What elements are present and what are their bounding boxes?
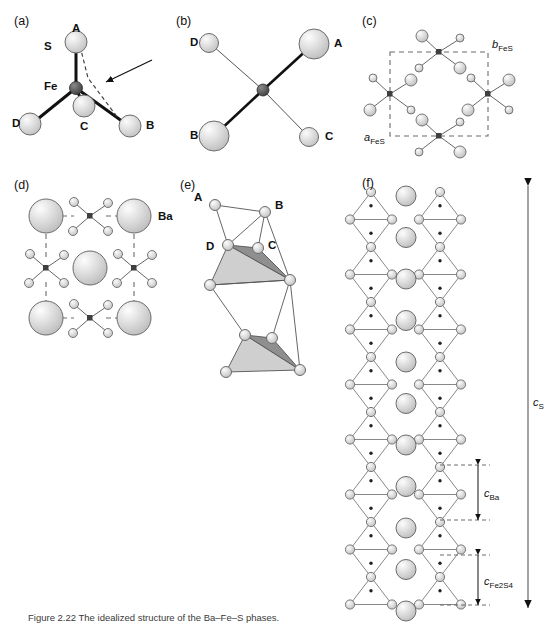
ba-sphere bbox=[73, 251, 107, 285]
label-iron: Fe bbox=[44, 80, 57, 92]
label-e-vertex-b: B bbox=[275, 199, 283, 211]
panel-label-c: (c) bbox=[362, 14, 377, 28]
panel-f-group bbox=[345, 186, 528, 621]
panel-label-d: (d) bbox=[14, 178, 29, 192]
param-c-ba: cBa bbox=[484, 487, 499, 502]
label-a-vertex-a: A bbox=[72, 22, 80, 34]
ba-sphere bbox=[117, 199, 151, 233]
param-b-fes-sub: FeS bbox=[498, 44, 513, 53]
param-a-fes: aFeS bbox=[364, 131, 385, 146]
ba-column bbox=[396, 186, 416, 621]
panel-e-group bbox=[205, 200, 306, 378]
fes-unit bbox=[69, 198, 113, 236]
fes4-chain-right bbox=[414, 187, 465, 609]
param-c-fe2s4: cFe2S4 bbox=[484, 575, 513, 590]
fes-unit bbox=[69, 300, 113, 338]
label-a-vertex-b: B bbox=[146, 119, 154, 131]
label-ba: Ba bbox=[158, 210, 173, 222]
label-e-vertex-c: C bbox=[268, 239, 276, 251]
label-b-vertex-a: A bbox=[334, 37, 342, 49]
param-c-ba-sub: Ba bbox=[490, 493, 500, 502]
panel-b-group bbox=[199, 29, 329, 151]
panel-d-group bbox=[25, 198, 157, 338]
ba-sphere bbox=[29, 301, 63, 335]
param-a-fes-sub: FeS bbox=[370, 137, 385, 146]
figure-caption: Figure 2.22 The idealized structure of t… bbox=[28, 612, 528, 626]
param-c-fe2s4-sub: Fe2S4 bbox=[490, 581, 514, 590]
crystal-structure-diagram bbox=[0, 0, 556, 628]
label-b-vertex-d: D bbox=[190, 36, 198, 48]
param-b-fes: bFeS bbox=[492, 38, 513, 53]
label-sulfur: S bbox=[44, 40, 52, 52]
label-a-vertex-d: D bbox=[12, 117, 20, 129]
label-e-vertex-a: A bbox=[194, 191, 202, 203]
panel-label-e: (e) bbox=[180, 178, 195, 192]
fes4-chain-left bbox=[345, 187, 396, 609]
label-b-vertex-c: C bbox=[325, 130, 333, 142]
panel-label-b: (b) bbox=[176, 14, 191, 28]
panel-label-f: (f) bbox=[362, 176, 374, 190]
label-a-vertex-c: C bbox=[80, 120, 88, 132]
ba-sphere bbox=[29, 199, 63, 233]
panel-label-a: (a) bbox=[14, 14, 29, 28]
ba-sphere bbox=[117, 301, 151, 335]
param-c-s: cS bbox=[533, 396, 544, 411]
figure-canvas: (a) (b) (c) (d) (e) (f) A S Fe D C B D A… bbox=[0, 0, 556, 628]
label-b-vertex-b: B bbox=[190, 129, 198, 141]
label-e-vertex-d: D bbox=[206, 240, 214, 252]
fes-unit bbox=[415, 30, 466, 74]
param-c-s-sub: S bbox=[539, 402, 544, 411]
